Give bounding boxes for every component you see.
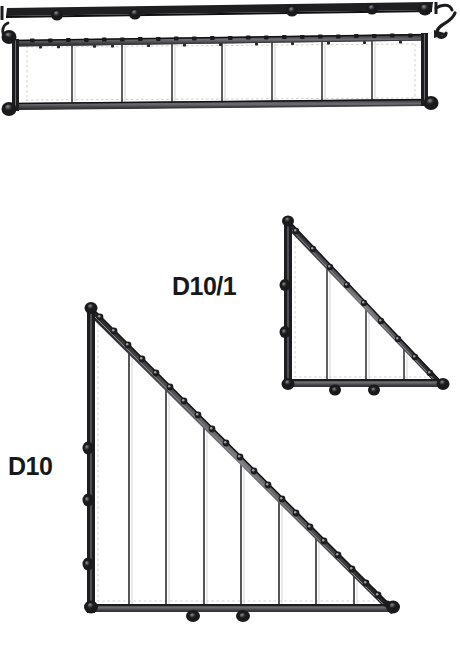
part-label-d10-1: D10/1 [172, 272, 236, 301]
drawing-sheet: D10/1 D10 [0, 0, 460, 672]
part-small-triangle [280, 216, 450, 396]
part-label-d10: D10 [8, 452, 52, 481]
part-top-girder [2, 5, 456, 116]
part-top-girder-upper-crop [2, 2, 436, 21]
girder-crop-hook [436, 5, 452, 10]
technical-drawing-canvas [0, 0, 460, 672]
